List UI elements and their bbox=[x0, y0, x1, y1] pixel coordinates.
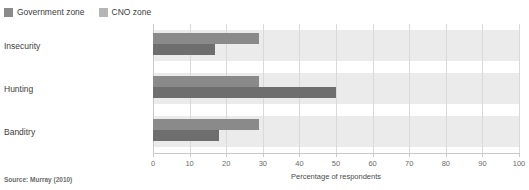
bar-banditry-cno-zone bbox=[153, 130, 219, 141]
legend-item-government-zone: Government zone bbox=[4, 8, 85, 17]
tick-label: 50 bbox=[332, 159, 340, 168]
gridline bbox=[519, 24, 520, 153]
legend-label-cno-zone: CNO zone bbox=[112, 8, 152, 17]
chart-legend: Government zone CNO zone bbox=[4, 5, 151, 19]
tick-mark bbox=[336, 153, 337, 157]
gridline bbox=[446, 24, 447, 153]
bar-hunting-cno-zone bbox=[153, 87, 336, 98]
gridline bbox=[336, 24, 337, 153]
bar-banditry-government-zone bbox=[153, 119, 259, 130]
tick-label: 90 bbox=[478, 159, 486, 168]
tick-mark bbox=[446, 153, 447, 157]
gridline bbox=[373, 24, 374, 153]
tick-label: 70 bbox=[405, 159, 413, 168]
legend-label-government-zone: Government zone bbox=[17, 8, 85, 17]
tick-label: 100 bbox=[513, 159, 526, 168]
legend-swatch-cno-zone bbox=[99, 8, 108, 17]
tick-mark bbox=[409, 153, 410, 157]
gridline bbox=[409, 24, 410, 153]
tick-mark bbox=[226, 153, 227, 157]
tick-label: 30 bbox=[259, 159, 267, 168]
category-label-hunting: Hunting bbox=[4, 84, 33, 94]
tick-label: 40 bbox=[295, 159, 303, 168]
gridline bbox=[482, 24, 483, 153]
x-axis-title: Percentage of respondents bbox=[153, 172, 519, 181]
category-label-banditry: Banditry bbox=[4, 127, 35, 137]
tick-mark bbox=[482, 153, 483, 157]
tick-label: 20 bbox=[222, 159, 230, 168]
tick-mark bbox=[373, 153, 374, 157]
tick-mark bbox=[153, 153, 154, 157]
tick-label: 80 bbox=[442, 159, 450, 168]
legend-swatch-government-zone bbox=[4, 8, 13, 17]
bar-insecurity-government-zone bbox=[153, 33, 259, 44]
source-note: Source: Murray (2010) bbox=[4, 176, 72, 183]
plot-area bbox=[153, 24, 519, 153]
tick-mark bbox=[299, 153, 300, 157]
category-label-insecurity: Insecurity bbox=[4, 41, 40, 51]
bar-hunting-government-zone bbox=[153, 76, 259, 87]
tick-label: 60 bbox=[368, 159, 376, 168]
tick-mark bbox=[190, 153, 191, 157]
bar-insecurity-cno-zone bbox=[153, 44, 215, 55]
tick-label: 10 bbox=[185, 159, 193, 168]
legend-item-cno-zone: CNO zone bbox=[99, 8, 152, 17]
tick-mark bbox=[263, 153, 264, 157]
tick-label: 0 bbox=[151, 159, 155, 168]
tick-mark bbox=[519, 153, 520, 157]
